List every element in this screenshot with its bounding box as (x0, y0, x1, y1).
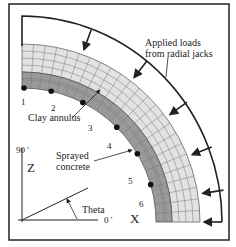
point-label-2: 2 (51, 103, 56, 113)
theta-label: Theta (82, 204, 105, 215)
x-axis-label: X (130, 213, 139, 224)
angle-0-label: 0 ' (104, 215, 112, 226)
sprayed-concrete-band (22, 44, 200, 222)
loads-leader-line (166, 57, 168, 77)
z-axis-label: Z (27, 162, 35, 173)
sprayed-label-1: Sprayed (56, 150, 89, 161)
sprayed-label-2: concrete (56, 161, 90, 172)
point-label-6: 6 (139, 199, 144, 209)
point-label-1: 1 (21, 97, 26, 107)
clay-annulus-band (22, 72, 172, 222)
angle-90-label: 90 ' (16, 145, 29, 156)
clay-annulus-label: Clay annulus (28, 112, 81, 123)
theta-arrow-icon (67, 199, 77, 219)
point-label-5: 5 (128, 176, 133, 186)
point-label-3: 3 (88, 123, 93, 133)
applied-loads-label-1: Applied loads (145, 37, 201, 48)
point-label-4: 4 (107, 141, 112, 151)
applied-loads-label-2: from radial jacks (145, 48, 213, 59)
concrete-leader-line (94, 150, 132, 161)
theta-line (22, 188, 88, 220)
